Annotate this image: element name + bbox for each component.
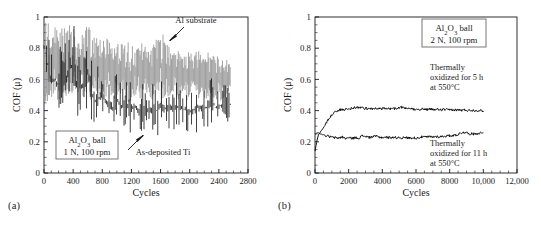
y-tick-label: 0.8 (300, 43, 312, 53)
y-tick-label: 0.4 (300, 106, 312, 116)
annotation-11h-line1: Thermally (430, 139, 466, 148)
annotation-5h-line3: at 550°C (430, 83, 460, 92)
x-tick-label: 400 (67, 176, 80, 186)
x-tick-label: 2400 (210, 176, 227, 186)
x-tick-label: 6000 (407, 176, 424, 186)
panel-a-label: (a) (8, 200, 20, 211)
annotation-11h-line3: at 550°C (430, 159, 460, 168)
x-tick-label: 0 (313, 176, 317, 186)
annotation-5h-line1: Thermally (430, 63, 466, 72)
y-tick-label: 0.2 (29, 137, 40, 147)
x-tick-label: 2000 (340, 176, 357, 186)
y-tick-label: 0.8 (29, 43, 41, 53)
y-tick-label: 1 (307, 12, 311, 22)
annotation-5h-line2: oxidized for 5 h (430, 73, 484, 82)
x-tick-label: 1600 (152, 176, 169, 186)
x-tick-label: 800 (96, 176, 109, 186)
annotation-11h-line2: oxidized for 11 h (430, 149, 488, 158)
panel-b-plot: 0200040006000800010,00012,00000.20.40.60… (270, 0, 541, 228)
panel-a: 04008001200160020002400280000.20.40.60.8… (0, 0, 270, 228)
x-axis-title: Cycles (132, 187, 159, 198)
y-tick-label: 0 (36, 168, 41, 178)
x-tick-label: 2000 (181, 176, 198, 186)
x-tick-label: 12,000 (505, 176, 529, 186)
y-axis-title: COF (μ) (282, 78, 294, 112)
annotation-al-substrate: Al substrate (175, 15, 216, 25)
y-tick-label: 0.6 (300, 75, 312, 85)
panel-b-label: (b) (278, 200, 291, 211)
y-tick-label: 0.6 (29, 75, 41, 85)
figure-cof-vs-cycles: 04008001200160020002400280000.20.40.60.8… (0, 0, 541, 228)
x-tick-label: 2800 (239, 176, 256, 186)
legend-load-label: 1 N, 100 rpm (64, 147, 111, 157)
legend-load-label: 2 N, 100 rpm (431, 35, 478, 45)
x-tick-label: 1200 (123, 176, 140, 186)
y-tick-label: 0.2 (300, 137, 311, 147)
annotation-as-deposited-ti: As-deposited Ti (136, 147, 191, 157)
y-tick-label: 0 (307, 168, 312, 178)
x-tick-label: 8000 (441, 176, 458, 186)
y-tick-label: 0.4 (29, 106, 41, 116)
x-tick-label: 10,000 (472, 176, 496, 186)
panel-b: 0200040006000800010,00012,00000.20.40.60… (270, 0, 540, 228)
x-tick-label: 4000 (374, 176, 391, 186)
x-axis-title: Cycles (402, 187, 429, 198)
y-tick-label: 1 (36, 12, 40, 22)
y-axis-title: COF (μ) (11, 78, 23, 112)
panel-a-plot: 04008001200160020002400280000.20.40.60.8… (0, 0, 270, 228)
x-tick-label: 0 (42, 176, 46, 186)
